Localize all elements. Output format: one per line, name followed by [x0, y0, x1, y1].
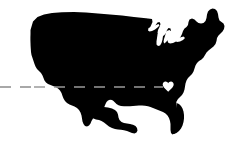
map-canvas	[0, 0, 236, 149]
gulf-coast-shape	[88, 104, 138, 134]
us-map-graphic	[0, 0, 236, 149]
us-landmass-shape	[30, 9, 224, 135]
